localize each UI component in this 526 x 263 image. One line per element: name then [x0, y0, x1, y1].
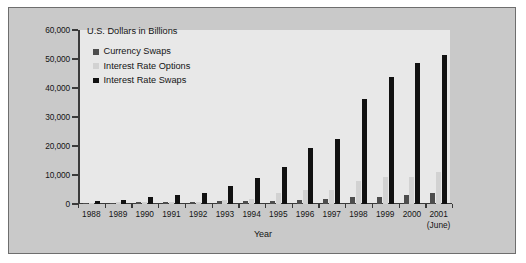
bar	[350, 197, 355, 204]
bar	[163, 202, 168, 204]
x-axis-tick	[212, 204, 213, 208]
bar	[356, 181, 361, 204]
bar	[169, 202, 174, 204]
x-axis-tick-label: 1994	[238, 209, 265, 219]
y-axis-tick-label: 10,000	[14, 170, 70, 180]
x-axis-tick	[292, 204, 293, 208]
bar-group	[185, 30, 212, 204]
bar	[202, 193, 207, 204]
x-axis-tick-label: 1997	[318, 209, 345, 219]
bar	[383, 177, 388, 204]
bar-group	[131, 30, 158, 204]
x-axis-tick	[399, 204, 400, 208]
x-axis-tick	[425, 204, 426, 208]
bar-group	[318, 30, 345, 204]
bar	[303, 190, 308, 204]
x-axis-tick-label: 1992	[185, 209, 212, 219]
bar	[175, 195, 180, 204]
x-axis-tick-label: 1999	[372, 209, 399, 219]
x-axis-tick	[158, 204, 159, 208]
bar-group	[345, 30, 372, 204]
bar	[308, 148, 313, 204]
bar	[297, 200, 302, 204]
bar	[95, 201, 100, 204]
bar	[110, 203, 115, 204]
bar-group	[212, 30, 239, 204]
bar	[228, 186, 233, 204]
bar-group	[265, 30, 292, 204]
x-axis-tick-label: 1988	[78, 209, 105, 219]
bar-group	[238, 30, 265, 204]
x-axis-tick-label: 1991	[158, 209, 185, 219]
x-axis-tick-label: 2001(June)	[425, 209, 452, 230]
bar	[282, 167, 287, 204]
y-axis-tick-label: 40,000	[14, 83, 70, 93]
x-axis-tick	[185, 204, 186, 208]
bar	[83, 203, 88, 204]
bar-group	[399, 30, 426, 204]
x-axis-tick-label: 1998	[345, 209, 372, 219]
bar	[323, 199, 328, 204]
bar	[436, 172, 441, 204]
bar-group	[372, 30, 399, 204]
bar	[136, 202, 141, 204]
bar	[249, 199, 254, 204]
x-axis-tick	[265, 204, 266, 208]
y-axis-tick-label: 20,000	[14, 141, 70, 151]
bar	[415, 63, 420, 204]
bar-group	[292, 30, 319, 204]
bar	[276, 193, 281, 204]
bar	[409, 177, 414, 204]
bar-group	[78, 30, 105, 204]
bar	[217, 201, 222, 204]
bar	[190, 202, 195, 204]
bar	[377, 197, 382, 204]
x-axis-tick-label: 1989	[105, 209, 132, 219]
bar	[329, 190, 334, 204]
y-axis-tick-label: 50,000	[14, 54, 70, 64]
x-axis-tick	[318, 204, 319, 208]
x-axis-tick-label: 1990	[131, 209, 158, 219]
y-axis-tick-label: 30,000	[14, 112, 70, 122]
x-axis-tick	[452, 204, 453, 208]
bar	[389, 77, 394, 204]
bar	[89, 203, 94, 204]
bar	[442, 55, 447, 204]
x-axis-tick	[131, 204, 132, 208]
chart-figure: U.S. Dollars in Billions 60,00050,00040,…	[8, 7, 516, 254]
bar	[404, 195, 409, 204]
x-axis-tick	[238, 204, 239, 208]
x-axis-tick-label: 1993	[212, 209, 239, 219]
y-axis-tick-label: 60,000	[14, 25, 70, 35]
bar-group	[158, 30, 185, 204]
x-axis-tick	[345, 204, 346, 208]
bar	[270, 201, 275, 204]
bar	[430, 193, 435, 204]
bar	[148, 197, 153, 204]
bar	[335, 139, 340, 204]
x-axis-tick	[78, 204, 79, 208]
x-axis-tick-label: 2000	[399, 209, 426, 219]
x-axis-tick-label: 1995	[265, 209, 292, 219]
bar	[243, 201, 248, 204]
x-axis-title: Year	[9, 229, 517, 239]
bar	[255, 178, 260, 204]
x-axis-tick-label: 1996	[292, 209, 319, 219]
x-axis-tick	[372, 204, 373, 208]
y-axis-tick-label: 0	[14, 199, 70, 209]
bar	[121, 200, 126, 204]
bar	[142, 202, 147, 204]
bar	[116, 202, 121, 204]
bar-group	[425, 30, 452, 204]
x-axis-tick	[105, 204, 106, 208]
bar	[196, 202, 201, 204]
bar	[362, 99, 367, 204]
bar-group	[105, 30, 132, 204]
bar	[222, 200, 227, 204]
